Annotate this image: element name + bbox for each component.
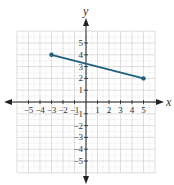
y-tick-label: 1 <box>79 85 84 95</box>
y-tick-label: 2 <box>79 73 84 83</box>
y-axis-down-arrow-icon <box>83 176 89 184</box>
y-tick-label: −4 <box>73 144 83 154</box>
y-tick-label: −1 <box>73 109 83 119</box>
endpoint-dot-icon <box>49 53 53 57</box>
y-tick-label: −2 <box>73 121 83 131</box>
x-tick-label: 2 <box>107 105 112 115</box>
x-axis-right-arrow-icon <box>156 99 164 105</box>
x-tick-label: 5 <box>141 105 146 115</box>
x-axis-left-arrow-icon <box>4 99 12 105</box>
y-tick-label: −3 <box>73 132 83 142</box>
y-tick-label: 5 <box>79 38 84 48</box>
x-axis-label: x <box>165 95 172 109</box>
x-tick-label: −2 <box>58 105 68 115</box>
x-tick-label: 1 <box>95 105 100 115</box>
x-tick-label: 3 <box>118 105 123 115</box>
endpoint-dot-icon <box>141 76 145 80</box>
coordinate-plane-chart: −5−4−3−2−112345−5−4−3−2−112345 x y <box>0 0 174 185</box>
y-axis-label: y <box>82 4 89 18</box>
y-axis-up-arrow-icon <box>83 18 89 26</box>
x-tick-label: −3 <box>47 105 57 115</box>
y-tick-label: 4 <box>79 50 84 60</box>
x-tick-label: −4 <box>35 105 45 115</box>
x-tick-label: −5 <box>24 105 34 115</box>
x-tick-label: 4 <box>130 105 135 115</box>
y-tick-label: −5 <box>73 156 83 166</box>
